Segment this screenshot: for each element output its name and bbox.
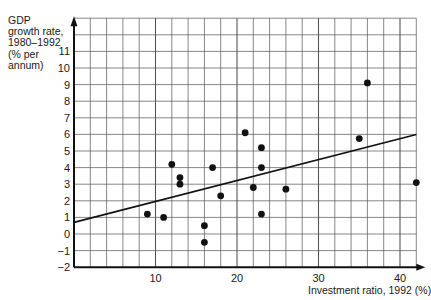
data-point bbox=[413, 179, 420, 186]
y-tick-label: −1 bbox=[57, 245, 70, 257]
data-point bbox=[258, 164, 265, 171]
data-point bbox=[201, 239, 208, 246]
x-tick-label: 10 bbox=[149, 272, 161, 284]
data-points bbox=[144, 80, 420, 246]
y-tick-label: 7 bbox=[64, 112, 70, 124]
data-point bbox=[258, 211, 265, 218]
data-point bbox=[242, 129, 249, 136]
data-point bbox=[356, 135, 363, 142]
x-tick-label: 20 bbox=[231, 272, 243, 284]
x-tick-label: 30 bbox=[312, 272, 324, 284]
y-axis-label-line: annum) bbox=[8, 60, 63, 71]
data-point bbox=[209, 164, 216, 171]
y-tick-label: 2 bbox=[64, 195, 70, 207]
chart-grid bbox=[74, 18, 416, 267]
y-tick-label: 1 bbox=[64, 211, 70, 223]
data-point bbox=[250, 184, 257, 191]
y-tick-label: 0 bbox=[64, 228, 70, 240]
x-axis-label: Investment ratio, 1992 (%) bbox=[308, 284, 431, 296]
data-point bbox=[283, 186, 290, 193]
data-point bbox=[168, 161, 175, 168]
data-point bbox=[201, 222, 208, 229]
data-point bbox=[258, 144, 265, 151]
y-tick-label: 4 bbox=[64, 162, 70, 174]
y-axis-label-line: 1980–1992 bbox=[8, 37, 63, 48]
data-point bbox=[177, 181, 184, 188]
y-tick-label: 8 bbox=[64, 95, 70, 107]
data-point bbox=[144, 211, 151, 218]
y-axis-label: GDP growth rate, 1980–1992 (% per annum) bbox=[8, 15, 63, 71]
data-point bbox=[364, 80, 371, 87]
chart-axes bbox=[71, 16, 426, 271]
y-axis-arrow-icon bbox=[71, 16, 78, 26]
y-tick-label: 3 bbox=[64, 178, 70, 190]
data-point bbox=[177, 174, 184, 181]
regression-line bbox=[74, 134, 416, 222]
y-tick-labels: −2−101234567891011 bbox=[57, 45, 70, 273]
y-tick-label: −2 bbox=[57, 261, 70, 273]
x-tick-labels: 10203040 bbox=[149, 272, 406, 284]
data-point bbox=[217, 192, 224, 199]
data-point bbox=[160, 214, 167, 221]
x-axis-arrow-icon bbox=[416, 264, 425, 271]
x-tick-label: 40 bbox=[394, 272, 406, 284]
y-tick-label: 9 bbox=[64, 79, 70, 91]
trend-line bbox=[74, 134, 416, 222]
y-tick-label: 6 bbox=[64, 128, 70, 140]
y-tick-label: 5 bbox=[64, 145, 70, 157]
